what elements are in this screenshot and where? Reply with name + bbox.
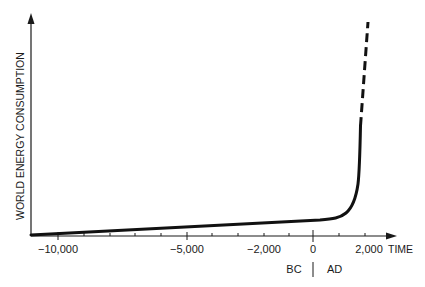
era-label-ad: AD (327, 263, 342, 275)
curve-projected (361, 22, 369, 126)
tick-label-2000: 2,000 (355, 243, 383, 255)
tick-label-minus-10000: −10,000 (38, 243, 78, 255)
x-axis-label: TIME (388, 243, 413, 255)
y-axis-label: WORLD ENERGY CONSUMPTION (14, 52, 26, 220)
tick-label-minus-5000: −5,000 (170, 243, 204, 255)
era-label-bc: BC (286, 263, 301, 275)
tick-label-0: 0 (310, 243, 316, 255)
x-axis-arrow-icon (386, 233, 397, 240)
y-axis-arrow-icon (28, 13, 35, 24)
tick-label-minus-2000: −2,000 (247, 243, 281, 255)
energy-consumption-chart: −10,000 −5,000 −2,000 0 2,000 TIME BC AD… (0, 0, 425, 287)
curve-historical (31, 126, 361, 235)
